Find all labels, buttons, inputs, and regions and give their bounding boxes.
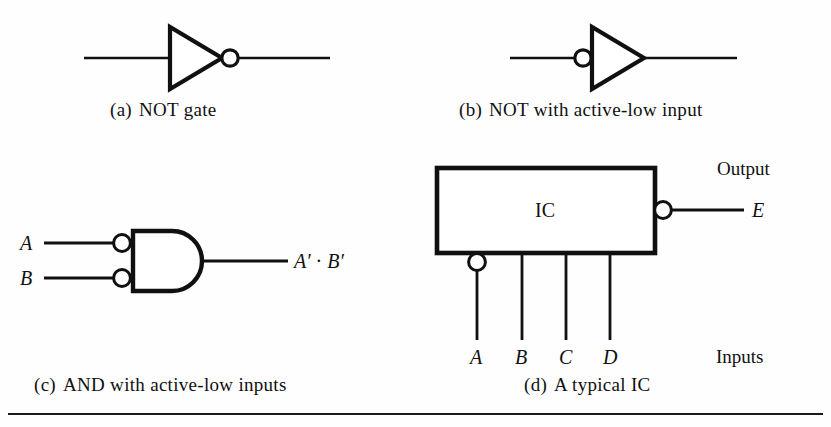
and-gate-label-b: B [20, 267, 32, 290]
and-gate-output-expression: A′·B′ [294, 250, 344, 273]
and-gate-c [44, 231, 288, 291]
ic-block-d [437, 168, 744, 340]
caption-a: (a)NOT gate [110, 99, 217, 121]
caption-c: (c)AND with active-low inputs [34, 374, 287, 396]
ic-input-bubble-a-icon [469, 254, 486, 271]
caption-c-tag: (c) [34, 374, 56, 395]
ic-output-bubble-icon [655, 202, 672, 219]
not-gate-b-triangle [592, 27, 644, 89]
ic-input-group-label: Inputs [716, 346, 764, 368]
not-gate-b [510, 27, 737, 89]
ic-input-label-b: B [515, 346, 527, 369]
caption-b-tag: (b) [459, 99, 482, 120]
ic-output-group-label: Output [717, 158, 770, 180]
ic-body-label: IC [535, 199, 555, 222]
expr-prime-b: ′ [339, 250, 343, 272]
logic-gate-figure [0, 0, 831, 427]
not-gate-a [84, 27, 330, 89]
caption-a-tag: (a) [110, 99, 132, 120]
and-gate-bubble-a-icon [114, 235, 131, 252]
caption-b: (b)NOT with active-low input [459, 99, 703, 121]
caption-b-text: NOT with active-low input [489, 99, 702, 120]
ic-output-label-e: E [752, 199, 764, 222]
ic-input-label-d: D [603, 346, 617, 369]
caption-d-text: A typical IC [554, 374, 650, 395]
caption-a-text: NOT gate [139, 99, 217, 120]
not-gate-a-triangle [170, 27, 222, 89]
and-gate-bubble-b-icon [114, 270, 131, 287]
and-gate-body [133, 231, 202, 291]
ic-input-label-a: A [470, 346, 482, 369]
and-gate-label-a: A [20, 232, 32, 255]
expr-var-a: A [294, 250, 306, 272]
caption-c-text: AND with active-low inputs [63, 374, 287, 395]
ic-input-label-c: C [559, 346, 572, 369]
expr-var-b: B [327, 250, 339, 272]
caption-d-tag: (d) [524, 374, 547, 395]
expr-operator: · [316, 250, 323, 272]
not-gate-b-bubble-icon [575, 50, 591, 66]
figure-page: A B A′·B′ IC A B C D E Output Inputs (a)… [0, 0, 831, 427]
caption-d: (d)A typical IC [524, 374, 651, 396]
not-gate-a-bubble-icon [222, 50, 238, 66]
expr-prime-a: ′ [306, 250, 310, 272]
